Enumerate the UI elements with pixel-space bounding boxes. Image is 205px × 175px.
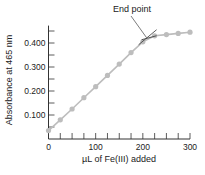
data-point bbox=[58, 117, 63, 122]
x-axis-label: µL of Fe(III) added bbox=[82, 154, 156, 164]
x-tick-label: 100 bbox=[89, 142, 103, 152]
x-tick-label: 0 bbox=[46, 142, 51, 152]
series-line bbox=[49, 32, 191, 130]
y-tick-label: 0.300 bbox=[24, 62, 46, 72]
data-point bbox=[69, 106, 74, 111]
data-point bbox=[81, 95, 86, 100]
data-point bbox=[164, 32, 169, 37]
end-point-annotation bbox=[131, 16, 157, 45]
leader-line bbox=[131, 16, 147, 38]
x-tick-label: 300 bbox=[183, 142, 197, 152]
y-tick-label: 0.100 bbox=[24, 110, 46, 120]
data-point bbox=[117, 62, 122, 67]
end-point-label: End point bbox=[113, 4, 152, 14]
y-axis-label: Absorbance at 465 nm bbox=[4, 35, 14, 126]
y-tick-label: 0.200 bbox=[24, 86, 46, 96]
y-tick-label: 0.400 bbox=[24, 38, 46, 48]
x-tick-label: 200 bbox=[136, 142, 150, 152]
data-point bbox=[46, 128, 51, 133]
data-point bbox=[93, 84, 98, 89]
axes: 0.1000.2000.3000.4000100200300 bbox=[24, 26, 197, 152]
data-point bbox=[176, 31, 181, 36]
data-point bbox=[105, 73, 110, 78]
data-point bbox=[187, 30, 192, 35]
data-point bbox=[128, 50, 133, 55]
data-series bbox=[46, 30, 193, 134]
titration-chart: 0.1000.2000.3000.4000100200300 Absorbanc… bbox=[0, 0, 205, 175]
